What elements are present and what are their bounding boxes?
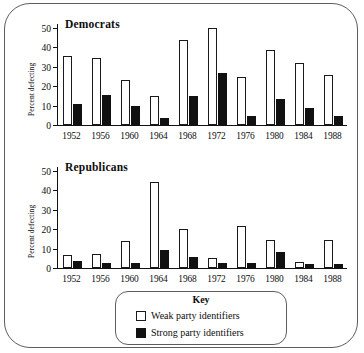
bar-weak	[121, 241, 130, 268]
bar-weak	[237, 77, 246, 125]
y-tick-label: 0	[25, 263, 51, 274]
x-tick-label: 1972	[207, 274, 225, 284]
figure-frame: Democrats Percent defecting 010203040501…	[4, 3, 358, 348]
bar-weak	[295, 262, 304, 268]
y-axis-line	[57, 24, 58, 125]
bar-strong	[218, 73, 227, 125]
bar-weak	[63, 56, 72, 125]
x-tick-label: 1956	[91, 131, 109, 141]
y-tick	[53, 28, 57, 29]
bar-weak	[63, 255, 72, 268]
chart-panel-republicans: Republicans Percent defecting 0102030405…	[5, 152, 359, 292]
x-tick-label: 1980	[265, 274, 283, 284]
x-tick-label: 1976	[236, 131, 254, 141]
bar-weak	[150, 182, 159, 268]
legend-swatch-strong-icon	[136, 328, 146, 338]
x-tick-label: 1960	[120, 131, 138, 141]
bar-strong	[102, 95, 111, 125]
y-tick	[53, 67, 57, 68]
y-tick	[53, 106, 57, 107]
y-tick	[53, 229, 57, 230]
y-tick-label: 20	[25, 224, 51, 235]
y-tick	[53, 268, 57, 269]
x-tick-label: 1984	[294, 131, 312, 141]
legend-key: Key Weak party identifiers Strong party …	[115, 291, 287, 345]
y-tick	[53, 171, 57, 172]
bar-strong	[131, 263, 140, 268]
x-tick-label: 1952	[62, 131, 80, 141]
bar-weak	[179, 40, 188, 125]
bar-weak	[179, 229, 188, 268]
bar-weak	[324, 75, 333, 126]
x-tick-label: 1968	[178, 131, 196, 141]
bar-strong	[218, 263, 227, 268]
x-tick-label: 1960	[120, 274, 138, 284]
bar-strong	[305, 264, 314, 268]
x-tick-label: 1964	[149, 131, 167, 141]
bar-weak	[92, 254, 101, 268]
x-tick-label: 1952	[62, 274, 80, 284]
y-tick	[53, 210, 57, 211]
bar-strong	[73, 104, 82, 125]
legend-entry-strong: Strong party identifiers	[136, 327, 244, 338]
bar-strong	[189, 96, 198, 125]
y-tick	[53, 190, 57, 191]
y-tick-label: 40	[25, 42, 51, 53]
bar-strong	[276, 252, 285, 269]
bar-weak	[121, 80, 130, 125]
legend-label-strong: Strong party identifiers	[151, 327, 244, 338]
bar-strong	[131, 106, 140, 125]
y-tick	[53, 47, 57, 48]
y-tick	[53, 86, 57, 87]
x-tick-label: 1964	[149, 274, 167, 284]
y-tick-label: 10	[25, 100, 51, 111]
plot-area-republicans: 0102030405019521956196019641968197219761…	[57, 167, 347, 268]
bar-strong	[160, 118, 169, 125]
x-tick-label: 1976	[236, 274, 254, 284]
y-tick-label: 30	[25, 61, 51, 72]
bar-strong	[247, 116, 256, 125]
bar-weak	[295, 63, 304, 125]
x-tick-label: 1988	[323, 274, 341, 284]
plot-area-democrats: 0102030405019521956196019641968197219761…	[57, 24, 347, 125]
bar-weak	[266, 50, 275, 125]
legend-title: Key	[116, 294, 286, 305]
y-tick-label: 20	[25, 81, 51, 92]
x-axis-line	[57, 268, 347, 269]
bar-strong	[276, 99, 285, 125]
legend-swatch-weak-icon	[136, 311, 146, 321]
bar-strong	[102, 263, 111, 268]
bar-weak	[324, 240, 333, 268]
bar-strong	[247, 263, 256, 268]
x-axis-line	[57, 125, 347, 126]
bar-strong	[160, 250, 169, 268]
bar-strong	[305, 108, 314, 125]
bar-weak	[237, 226, 246, 268]
y-tick-label: 30	[25, 204, 51, 215]
bar-weak	[92, 58, 101, 125]
x-tick-label: 1956	[91, 274, 109, 284]
bar-strong	[73, 261, 82, 268]
y-tick-label: 50	[25, 165, 51, 176]
bar-strong	[189, 257, 198, 268]
x-tick-label: 1980	[265, 131, 283, 141]
x-tick-label: 1988	[323, 131, 341, 141]
bar-weak	[266, 240, 275, 268]
bar-weak	[150, 96, 159, 125]
y-tick-label: 40	[25, 185, 51, 196]
y-tick	[53, 249, 57, 250]
y-axis-line	[57, 167, 58, 268]
bar-strong	[334, 116, 343, 125]
y-tick-label: 10	[25, 243, 51, 254]
legend-entry-weak: Weak party identifiers	[136, 310, 240, 321]
chart-panel-democrats: Democrats Percent defecting 010203040501…	[5, 4, 359, 154]
bar-weak	[208, 28, 217, 125]
y-tick-label: 0	[25, 120, 51, 131]
bar-strong	[334, 264, 343, 268]
x-tick-label: 1968	[178, 274, 196, 284]
y-tick-label: 50	[25, 22, 51, 33]
y-tick	[53, 125, 57, 126]
bar-weak	[208, 258, 217, 268]
legend-label-weak: Weak party identifiers	[151, 310, 240, 321]
x-tick-label: 1972	[207, 131, 225, 141]
